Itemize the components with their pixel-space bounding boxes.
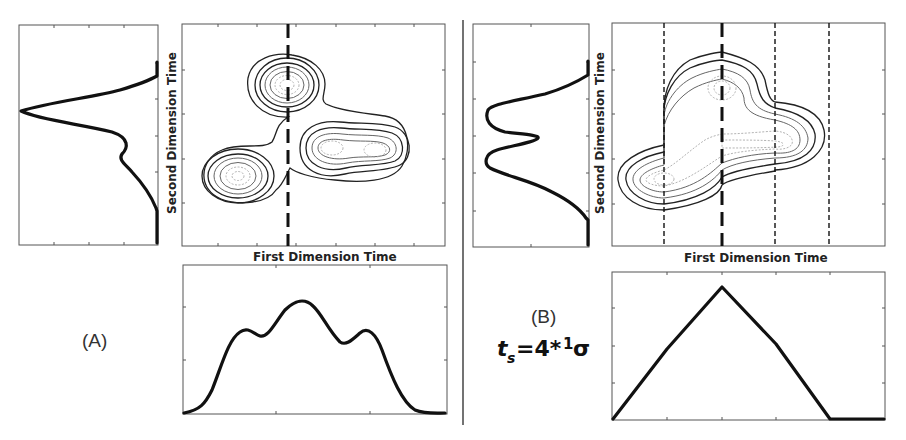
panel-a: Second Dimension Time xyxy=(19,24,447,414)
plot-frame xyxy=(183,265,447,414)
figure-canvas: Second Dimension Time xyxy=(0,0,906,440)
formula-body: =4* xyxy=(516,336,562,361)
profile-curve xyxy=(184,301,445,413)
panel-a-first-dim-profile xyxy=(183,265,447,414)
axis-ticks xyxy=(54,25,158,245)
axis-label-second-dimension: Second Dimension Time xyxy=(165,52,179,214)
panel-a-second-dim-profile xyxy=(19,25,158,245)
plot-frame xyxy=(612,23,885,246)
panel-b: Second Dimension Time xyxy=(473,23,885,420)
axis-label-second-dimension: Second Dimension Time xyxy=(593,52,607,214)
profile-curve xyxy=(21,62,157,243)
plot-frame xyxy=(612,272,885,420)
panel-b-contour-plot xyxy=(612,23,885,246)
contour-peak-lower-left xyxy=(202,149,274,203)
contour-outer xyxy=(204,54,408,202)
profile-curve xyxy=(613,287,884,419)
axis-label-first-dimension: First Dimension Time xyxy=(253,250,397,264)
profile-curve xyxy=(486,61,588,245)
axis-ticks xyxy=(612,272,885,420)
plot-frame xyxy=(19,25,158,245)
panel-a-contour-plot xyxy=(182,24,445,246)
formula-sigma: σ xyxy=(573,336,590,361)
formula-subscript: s xyxy=(507,350,515,366)
axis-ticks xyxy=(612,70,885,204)
panel-b-second-dim-profile xyxy=(473,24,589,247)
panel-label-a: (A) xyxy=(82,330,107,351)
formula-superscript: 1 xyxy=(563,335,573,353)
panel-b-first-dim-profile xyxy=(612,272,885,420)
modulation-period-formula: t s =4* 1 σ xyxy=(497,335,590,366)
axis-label-first-dimension: First Dimension Time xyxy=(684,251,828,265)
axis-ticks xyxy=(183,265,447,414)
panel-label-b: (B) xyxy=(531,306,556,327)
contour-peak-right-double xyxy=(300,122,409,176)
